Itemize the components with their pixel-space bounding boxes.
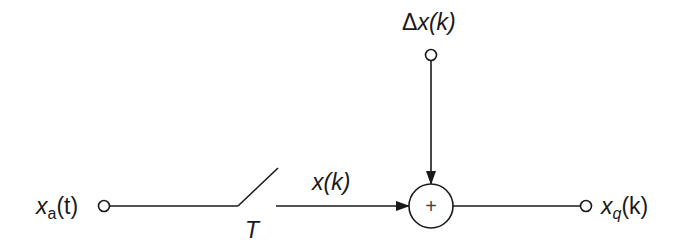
noise-input-label: Δx(k) xyxy=(402,9,456,35)
input-terminal xyxy=(99,201,110,212)
sampled-signal-label: x(k) xyxy=(311,169,350,195)
output-terminal xyxy=(581,201,592,212)
sampler-switch xyxy=(238,168,278,206)
input-label: xa(t) xyxy=(35,193,78,222)
noise-terminal xyxy=(426,50,437,61)
diagram-canvas: xa(t) T x(k) Δx(k) + xq(k) xyxy=(0,0,695,246)
sampler-period-label: T xyxy=(245,217,261,243)
output-label: xq(k) xyxy=(600,193,648,222)
plus-symbol: + xyxy=(425,195,437,217)
